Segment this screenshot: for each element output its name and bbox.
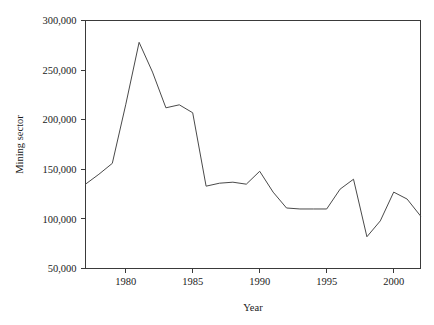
y-tick-label: 300,000 bbox=[42, 15, 76, 26]
x-tick-label: 1995 bbox=[316, 276, 337, 287]
y-tick-label: 150,000 bbox=[42, 164, 76, 175]
y-axis-ticks: 50,000100,000150,000200,000250,000300,00… bbox=[42, 15, 85, 274]
x-tick-label: 1990 bbox=[249, 276, 270, 287]
y-tick-label: 100,000 bbox=[42, 214, 76, 225]
y-tick-label: 250,000 bbox=[42, 65, 76, 76]
x-axis-title: Year bbox=[243, 302, 263, 313]
chart-container: 50,000100,000150,000200,000250,000300,00… bbox=[0, 0, 434, 325]
x-axis-ticks: 19801985199019952000 bbox=[115, 269, 404, 287]
y-axis-title: Mining sector bbox=[14, 115, 25, 174]
x-tick-label: 1980 bbox=[115, 276, 136, 287]
line-chart: 50,000100,000150,000200,000250,000300,00… bbox=[0, 0, 434, 325]
y-tick-label: 50,000 bbox=[48, 263, 77, 274]
x-tick-label: 1985 bbox=[182, 276, 203, 287]
series-line-mining-sector bbox=[86, 42, 421, 236]
x-tick-label: 2000 bbox=[383, 276, 404, 287]
y-tick-label: 200,000 bbox=[42, 114, 76, 125]
data-series-group bbox=[86, 42, 421, 236]
